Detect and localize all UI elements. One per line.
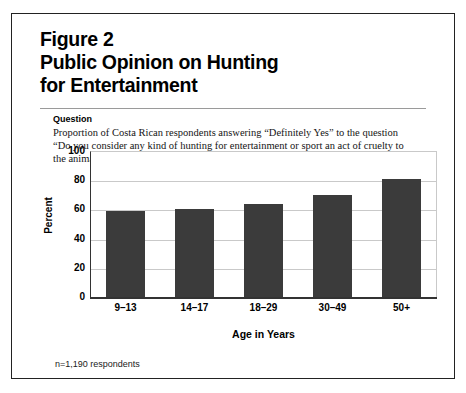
y-tick-20: 20	[55, 263, 85, 273]
y-tick-100: 100	[55, 146, 85, 156]
bar-30–49	[313, 151, 352, 297]
bar-rect	[106, 211, 145, 297]
y-axis-tick-labels: 020406080100	[52, 151, 85, 297]
y-tick-80: 80	[55, 175, 85, 185]
footnote: n=1,190 respondents	[55, 359, 140, 369]
bar-14–17	[175, 151, 214, 297]
x-tick-14–17: 14–17	[160, 302, 229, 314]
x-tick-18–29: 18–29	[229, 302, 298, 314]
y-tick-40: 40	[55, 234, 85, 244]
x-axis-title: Age in Years	[91, 328, 436, 340]
x-tick-30–49: 30–49	[298, 302, 367, 314]
y-tick-0: 0	[55, 292, 85, 302]
x-tick-50+: 50+	[367, 302, 436, 314]
bar-rect	[175, 209, 214, 297]
y-tick-60: 60	[55, 204, 85, 214]
x-axis-line	[90, 297, 437, 299]
bars-layer	[91, 151, 436, 297]
figure-card: Figure 2 Public Opinion on Hunting for E…	[11, 13, 455, 379]
x-tick-9–13: 9–13	[91, 302, 160, 314]
bar-rect	[313, 195, 352, 297]
bar-50+	[382, 151, 421, 297]
bar-chart: Percent 020406080100 9–1314–1718–2930–49…	[12, 14, 456, 380]
bar-18–29	[244, 151, 283, 297]
x-axis-tick-labels: 9–1314–1718–2930–4950+	[91, 302, 436, 316]
bar-9–13	[106, 151, 145, 297]
bar-rect	[382, 179, 421, 297]
bar-rect	[244, 204, 283, 297]
